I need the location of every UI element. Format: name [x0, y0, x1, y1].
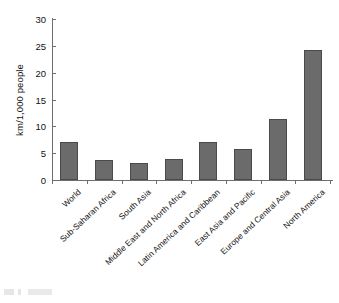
- y-axis-tick-label: 10: [35, 121, 46, 132]
- y-axis-tick-label: 5: [41, 148, 46, 159]
- x-axis-tick-mark: [330, 180, 331, 184]
- x-axis-tick-mark: [295, 180, 296, 184]
- bar[interactable]: [234, 149, 252, 180]
- y-axis-tick-label: 0: [41, 175, 46, 186]
- x-axis-line: [52, 180, 333, 181]
- y-axis-tick-mark: [52, 100, 56, 101]
- x-axis-tick-mark: [191, 180, 192, 184]
- x-axis-category-label: South Asia: [116, 187, 152, 222]
- bar[interactable]: [199, 142, 217, 180]
- y-axis-tick-mark: [52, 19, 56, 20]
- bar[interactable]: [130, 163, 148, 180]
- x-axis-tick-mark: [52, 180, 53, 184]
- y-axis-tick-label: 25: [35, 40, 46, 51]
- bar[interactable]: [304, 50, 322, 180]
- y-axis-tick-label: 20: [35, 67, 46, 78]
- y-axis-tick-label: 30: [35, 14, 46, 25]
- y-axis-tick-mark: [52, 46, 56, 47]
- bar[interactable]: [60, 142, 78, 180]
- x-axis-category-label: Europe and Central Asia: [218, 187, 291, 256]
- x-axis-category-label: East Asia and Pacific: [193, 187, 257, 248]
- x-axis-tick-mark: [261, 180, 262, 184]
- y-axis-tick-mark: [52, 153, 56, 154]
- y-axis-label: km/1,000 people: [14, 0, 25, 50]
- y-axis-tick-mark: [52, 73, 56, 74]
- y-axis-label-text: km/1,000 people: [14, 50, 25, 150]
- x-axis-tick-mark: [226, 180, 227, 184]
- x-axis-tick-mark: [87, 180, 88, 184]
- plot-area: 051015202530: [52, 19, 330, 180]
- bar[interactable]: [95, 160, 113, 180]
- y-axis-tick-label: 15: [35, 94, 46, 105]
- x-axis-tick-mark: [156, 180, 157, 184]
- scan-artifact: [4, 289, 68, 295]
- x-axis-tick-mark: [122, 180, 123, 184]
- bar[interactable]: [165, 159, 183, 180]
- bar-chart-figure: km/1,000 people 051015202530 WorldSub-Sa…: [0, 0, 339, 303]
- x-axis-category-label: World: [60, 187, 83, 209]
- y-axis-tick-mark: [52, 126, 56, 127]
- bar[interactable]: [269, 119, 287, 180]
